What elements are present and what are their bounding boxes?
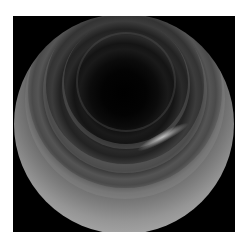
endoscope-view	[14, 16, 234, 232]
lens-vignette	[14, 16, 234, 232]
image-frame	[13, 16, 235, 232]
